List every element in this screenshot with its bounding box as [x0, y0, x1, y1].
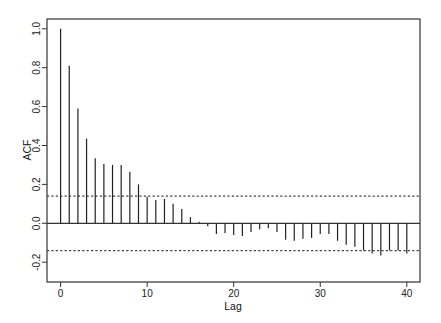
x-tick-label: 20 — [228, 288, 240, 299]
y-tick-label: 1.0 — [31, 21, 42, 35]
y-tick-label: 0.6 — [31, 99, 42, 113]
y-axis-label: ACF — [21, 140, 33, 161]
y-tick-label: 0.8 — [31, 60, 42, 74]
y-tick-label: 0.0 — [31, 216, 42, 230]
x-tick-label: 0 — [58, 288, 64, 299]
acf-chart: -0.20.00.20.40.60.81.0 010203040 Lag ACF — [0, 0, 441, 323]
y-tick-label: -0.2 — [31, 253, 42, 271]
x-tick-label: 30 — [315, 288, 327, 299]
x-tick-label: 40 — [401, 288, 413, 299]
x-axis: 010203040 — [58, 282, 413, 299]
acf-bars — [61, 29, 407, 256]
y-tick-label: 0.2 — [31, 177, 42, 191]
x-axis-label: Lag — [224, 300, 242, 312]
y-axis: -0.20.00.20.40.60.81.0 — [31, 21, 47, 270]
x-tick-label: 10 — [142, 288, 154, 299]
